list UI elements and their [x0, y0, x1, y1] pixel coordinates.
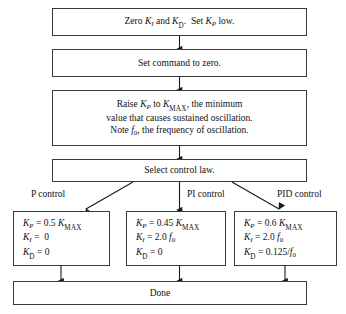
- branch-label-pi-control: PI control: [187, 189, 225, 200]
- equation-kd: KD = 0: [23, 246, 105, 261]
- result-equations-pi-control: KP = 0.45 KMAX KI = 2.0 f0 KD = 0: [127, 217, 225, 261]
- step-text-select-control-law: Select control law.: [53, 164, 306, 177]
- step-box-select-control-law: Select control law.: [52, 159, 307, 182]
- equation-ki: KI = 2.0 f0: [136, 231, 221, 246]
- step-box-set-command-zero: Set command to zero.: [52, 49, 307, 77]
- result-equations-pid-control: KP = 0.6 KMAX KI = 2.0 f0 KD = 0.125/f0: [235, 217, 336, 261]
- step-text-zero-gains: Zero KI and KD. Set KP low.: [53, 15, 306, 29]
- connector-layer: [0, 0, 346, 314]
- step-text-done: Done: [14, 287, 306, 300]
- result-box-pi-control: KP = 0.45 KMAX KI = 2.0 f0 KD = 0: [126, 211, 226, 266]
- branch-label-p-control: P control: [31, 189, 65, 200]
- branch-label-pid-control: PID control: [277, 189, 322, 200]
- equation-kd: KD = 0.125/f0: [244, 246, 332, 261]
- step-text-raise-kp: Raise KP to KMAX, the minimum value that…: [53, 98, 306, 138]
- equation-kp: KP = 0.6 KMAX: [244, 217, 332, 232]
- equation-kp: KP = 0.45 KMAX: [136, 217, 221, 232]
- equation-ki: KI = 2.0 f0: [244, 231, 332, 246]
- equation-kd: KD = 0: [136, 246, 221, 261]
- step-box-zero-gains: Zero KI and KD. Set KP low.: [52, 8, 307, 36]
- step-box-done: Done: [13, 281, 307, 305]
- connector-branch-p: [86, 182, 133, 209]
- step-box-raise-kp: Raise KP to KMAX, the minimum value that…: [52, 90, 307, 146]
- step-text-set-command-zero: Set command to zero.: [53, 57, 306, 70]
- equation-kp: KP = 0.5 KMAX: [23, 217, 105, 232]
- result-equations-p-control: KP = 0.5 KMAX KI = 0 KD = 0: [14, 217, 109, 261]
- connector-branch-pid: [232, 182, 279, 209]
- result-box-pid-control: KP = 0.6 KMAX KI = 2.0 f0 KD = 0.125/f0: [234, 211, 337, 266]
- result-box-p-control: KP = 0.5 KMAX KI = 0 KD = 0: [13, 211, 110, 266]
- equation-ki: KI = 0: [23, 231, 105, 246]
- flowchart-canvas: Zero KI and KD. Set KP low. Set command …: [0, 0, 346, 314]
